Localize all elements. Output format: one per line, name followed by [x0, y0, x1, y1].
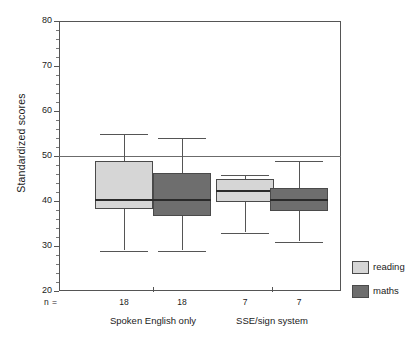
y-tick-label: 30 — [26, 241, 52, 250]
legend-item-maths: maths — [352, 281, 405, 301]
whisker-cap-lower — [275, 242, 323, 243]
whisker-cap-lower — [221, 233, 269, 234]
whisker-lower — [245, 202, 246, 233]
whisker-cap-upper — [275, 161, 323, 162]
x-tick — [153, 287, 154, 292]
whisker-upper — [124, 134, 125, 162]
whisker-cap-upper — [221, 175, 269, 176]
legend: readingmaths — [352, 257, 405, 305]
x-tick — [272, 287, 273, 292]
reference-line-50 — [59, 156, 341, 157]
whisker-cap-lower — [100, 251, 148, 252]
y-axis-title: Standardized scores — [15, 43, 27, 243]
n-value-label: 7 — [284, 298, 314, 307]
box-iqr — [95, 161, 153, 209]
median-line — [270, 199, 328, 201]
legend-swatch-reading — [352, 261, 369, 274]
box-iqr — [153, 173, 211, 216]
legend-label: reading — [373, 262, 405, 272]
plot-area — [59, 21, 341, 291]
median-line — [153, 199, 211, 201]
median-line — [216, 190, 274, 192]
n-prefix-label: n = — [44, 298, 58, 307]
whisker-cap-lower — [158, 251, 206, 252]
whisker-lower — [182, 216, 183, 251]
y-tick-label: 80 — [26, 16, 52, 25]
x-group-label: SSE/sign system — [202, 316, 342, 326]
legend-item-reading: reading — [352, 257, 405, 277]
y-tick-label: 60 — [26, 106, 52, 115]
y-tick-label: 70 — [26, 61, 52, 70]
whisker-cap-upper — [158, 138, 206, 139]
median-line — [95, 199, 153, 201]
whisker-lower — [124, 209, 125, 250]
n-value-label: 7 — [230, 298, 260, 307]
n-value-label: 18 — [167, 298, 197, 307]
whisker-upper — [299, 161, 300, 188]
n-value-label: 18 — [109, 298, 139, 307]
y-tick-label: 20 — [26, 286, 52, 295]
legend-label: maths — [373, 286, 399, 296]
y-tick-label: 40 — [26, 196, 52, 205]
whisker-lower — [299, 211, 300, 242]
y-tick-label: 50 — [26, 151, 52, 160]
boxplot-chart: Standardized scores 20304050607080 n =18… — [0, 0, 414, 343]
whisker-upper — [182, 138, 183, 173]
legend-swatch-maths — [352, 285, 369, 298]
whisker-cap-upper — [100, 134, 148, 135]
